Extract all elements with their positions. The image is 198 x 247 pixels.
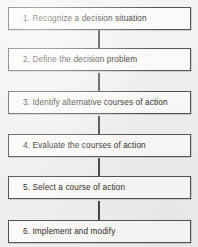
flowchart-step-2-label: 2. Define the decision problem: [9, 55, 137, 65]
connector-line-3-4: [98, 116, 100, 134]
connector-line-1-2: [98, 30, 100, 48]
flowchart-step-1-label: 1. Recognize a decision situation: [9, 14, 147, 24]
flowchart-step-5-label: 5. Select a course of action: [9, 183, 125, 193]
flowchart-step-6-label: 6. Implement and modify: [9, 227, 115, 237]
flowchart-step-5: 5. Select a course of action: [8, 176, 191, 199]
flowchart-step-6: 6. Implement and modify: [8, 220, 191, 243]
flowchart-step-3: 3. Identify alternative courses of actio…: [8, 91, 191, 114]
connector-line-4-5: [98, 158, 100, 176]
flowchart-step-3-label: 3. Identify alternative courses of actio…: [9, 98, 168, 108]
flowchart-step-4-label: 4. Evaluate the courses of action: [9, 141, 146, 151]
connector-line-2-3: [98, 73, 100, 91]
flowchart-step-1: 1. Recognize a decision situation: [8, 7, 191, 30]
connector-line-5-6: [98, 201, 100, 220]
flowchart-step-4: 4. Evaluate the courses of action: [8, 134, 191, 157]
flowchart-step-2: 2. Define the decision problem: [8, 48, 191, 71]
decision-process-flowchart: 1. Recognize a decision situation 2. Def…: [0, 0, 198, 247]
